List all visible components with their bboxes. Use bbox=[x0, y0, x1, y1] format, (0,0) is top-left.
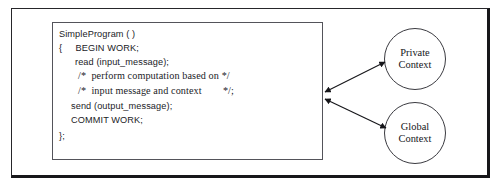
code-line-close-brace: }; bbox=[59, 131, 65, 141]
global-context-label-line2: Context bbox=[399, 133, 432, 145]
code-line-commit-work: COMMIT WORK; bbox=[71, 115, 143, 125]
global-context-label-line1: Global bbox=[401, 121, 429, 133]
program-code-box: SimpleProgram ( ) { BEGIN WORK; read (in… bbox=[52, 22, 323, 160]
code-line-comment-2: /* input message and context */; bbox=[78, 85, 234, 96]
code-line-signature: SimpleProgram ( ) bbox=[59, 29, 135, 39]
private-context-node: Private Context bbox=[384, 28, 446, 90]
code-line-begin-work: { BEGIN WORK; bbox=[59, 43, 139, 53]
private-context-label-line1: Private bbox=[400, 47, 429, 59]
private-context-label-line2: Context bbox=[399, 59, 432, 71]
code-line-send: send (output_message); bbox=[71, 101, 172, 111]
code-line-comment-1: /* perform computation based on */ bbox=[78, 70, 230, 81]
diagram-figure: SimpleProgram ( ) { BEGIN WORK; read (in… bbox=[0, 0, 503, 192]
code-line-read: read (input_message); bbox=[75, 57, 169, 67]
global-context-node: Global Context bbox=[384, 102, 446, 164]
